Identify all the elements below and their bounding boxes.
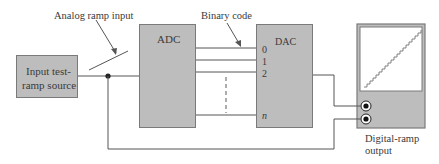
dac-bit-n: n <box>262 111 267 121</box>
scope-label-line1: Digital-ramp <box>365 134 419 145</box>
dac-label: DAC <box>275 37 296 47</box>
dac-block: DAC 0 1 2 n <box>256 24 313 128</box>
adc-test-diagram: Input test- ramp source ADC DAC 0 1 2 n … <box>0 0 439 164</box>
scope-label-line2: output <box>365 146 392 157</box>
source-label-line2: ramp source <box>22 80 76 91</box>
analog-ramp-input-label: Analog ramp input <box>54 11 133 22</box>
adc-label: ADC <box>157 34 180 45</box>
dac-bit-0: 0 <box>262 45 267 55</box>
input-ramp-source-block: Input test- ramp source <box>16 55 78 98</box>
dac-bit-1: 1 <box>262 57 267 67</box>
source-label-line1: Input test- <box>26 66 71 77</box>
adc-block: ADC <box>139 24 196 128</box>
dac-bit-2: 2 <box>262 69 267 79</box>
binary-code-label: Binary code <box>201 11 252 22</box>
